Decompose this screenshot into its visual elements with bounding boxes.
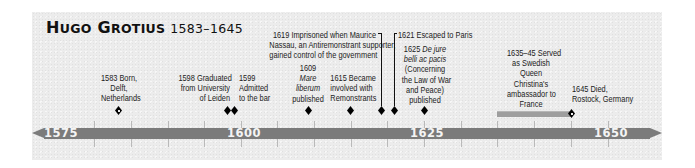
event-text: published xyxy=(402,95,448,105)
book-title: belli ac pacis xyxy=(404,54,446,64)
event-text: belli ac pacis xyxy=(402,54,448,64)
event-remonstrants-label: 1615 Became involved with Remonstrants xyxy=(330,73,371,104)
event-text: of Leiden xyxy=(178,93,230,103)
event-text: 1609 xyxy=(291,63,325,73)
event-born-label: 1583 Born, Delft, Netherlands xyxy=(101,73,137,104)
event-text: and Peace) xyxy=(402,85,448,95)
axis-label-1650: 1650 xyxy=(594,127,628,140)
axis-label-1625: 1625 xyxy=(410,127,444,140)
event-text: 1645 Died, xyxy=(572,84,632,94)
event-text: 1635–45 Served xyxy=(507,48,555,58)
event-text: ambassador to xyxy=(507,89,555,99)
event-text: Remonstrants xyxy=(330,93,371,103)
event-text: Rostock, Germany xyxy=(572,94,632,104)
title-initial-g: G xyxy=(98,18,111,37)
event-text: gained control of the government xyxy=(269,50,376,60)
event-text: Christina's xyxy=(507,79,555,89)
axis-label-1600: 1600 xyxy=(227,127,261,140)
event-text: the Law of War xyxy=(402,75,448,85)
event-text: Delft, xyxy=(101,83,137,93)
book-title: Mare xyxy=(300,73,317,83)
ambassador-range-bar xyxy=(497,111,571,117)
timeline-axis-bar xyxy=(44,128,650,139)
event-text: 1625 De jure xyxy=(402,44,448,54)
event-text: from University xyxy=(178,83,230,93)
book-title: liberum xyxy=(296,83,320,93)
axis-label-1575: 1575 xyxy=(44,127,78,140)
event-text: France xyxy=(507,99,555,109)
event-text: Admitted xyxy=(239,83,273,93)
timeline-title: HUGO GROTIUS1583–1645 xyxy=(46,18,243,37)
timeline-arrow-right-icon xyxy=(650,128,662,138)
title-rest-ugo: UGO xyxy=(60,21,92,36)
leader-line-1619 xyxy=(381,33,382,106)
event-text: Nassau, an Antiremonstrant supporter, xyxy=(269,40,376,50)
event-imprisoned-label: 1619 Imprisoned when Maurice Nassau, an … xyxy=(269,30,376,61)
event-text: 1621 Escaped to Paris xyxy=(398,30,467,40)
event-text: liberum xyxy=(291,83,325,93)
event-text: 1583 Born, xyxy=(101,73,137,83)
event-de-jure-label: 1625 De jure belli ac pacis (Concerning … xyxy=(402,44,448,105)
leader-line-1621 xyxy=(394,33,395,106)
event-bar-label: 1599 Admitted to the bar xyxy=(239,73,273,104)
event-text: 1599 xyxy=(239,73,273,83)
event-mare-liberum-label: 1609 Mare liberum published xyxy=(291,63,325,104)
event-text: 1615 Became xyxy=(330,73,371,83)
event-text: 1619 Imprisoned when Maurice xyxy=(269,30,376,40)
event-graduated-label: 1598 Graduated from University of Leiden xyxy=(178,73,230,104)
title-initial-h: H xyxy=(46,18,60,37)
event-text: (Concerning xyxy=(402,64,448,74)
event-text: Netherlands xyxy=(101,93,137,103)
event-text: involved with xyxy=(330,83,371,93)
title-rest-rotius: ROTIUS xyxy=(111,21,165,36)
event-died-label: 1645 Died, Rostock, Germany xyxy=(572,84,632,104)
event-year: 1625 xyxy=(404,44,423,54)
event-text: as Swedish xyxy=(507,58,555,68)
title-dates: 1583–1645 xyxy=(170,21,243,36)
event-escaped-label: 1621 Escaped to Paris xyxy=(398,30,467,40)
event-text: Mare xyxy=(291,73,325,83)
event-text: to the bar xyxy=(239,93,273,103)
event-text: 1598 Graduated xyxy=(178,73,230,83)
book-title: De jure xyxy=(422,44,446,54)
timeline-arrow-left-icon xyxy=(32,128,44,138)
event-ambassador-label: 1635–45 Served as Swedish Queen Christin… xyxy=(507,48,555,109)
event-text: Queen xyxy=(507,68,555,78)
event-text: published xyxy=(291,94,325,104)
